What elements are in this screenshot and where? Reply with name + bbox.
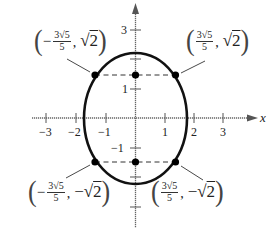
label-bottom-right: ( 3√5 5 , −√2 ) <box>151 179 224 205</box>
comma: , <box>215 35 219 54</box>
radicand: 2 <box>93 182 102 201</box>
y-tick-label: 3 <box>121 23 127 37</box>
y-tick-label: 1 <box>122 82 128 96</box>
numerator: 3√5 <box>196 30 214 42</box>
sign: − <box>43 33 51 50</box>
sign: − <box>74 182 84 201</box>
radicand: 2 <box>207 182 216 201</box>
point-bottom-left <box>91 158 98 165</box>
sqrt-icon: √ <box>197 182 206 201</box>
leader-line-top-left <box>67 59 90 72</box>
x-tick-label: 3 <box>220 125 226 139</box>
fraction: 3√5 5 <box>161 181 179 203</box>
sqrt-expr: −√2 <box>188 182 215 202</box>
label-top-left: ( − 3√5 5 , √2 ) <box>34 28 107 54</box>
point-bottom-right <box>172 158 179 165</box>
x-tick-label: 2 <box>191 125 197 139</box>
numerator: 3√5 <box>161 181 179 193</box>
comma: , <box>67 186 71 205</box>
denominator: 5 <box>59 42 64 53</box>
y-tick-label: −1 <box>111 141 124 155</box>
x-tick-label: −2 <box>68 125 81 139</box>
fraction: 3√5 5 <box>196 30 214 52</box>
leader-line-bottom-right <box>181 166 203 180</box>
sign: − <box>37 184 45 201</box>
numerator: 3√5 <box>53 30 71 42</box>
point-top-center <box>132 71 139 78</box>
paren-open: ( <box>151 177 160 207</box>
radicand: 2 <box>89 31 98 50</box>
y-axis: 3 1 −1 <box>111 3 141 228</box>
denominator: 5 <box>202 42 207 53</box>
paren-close: ) <box>215 177 224 207</box>
label-top-right: ( 3√5 5 , √2 ) <box>186 28 249 54</box>
sqrt-expr: √2 <box>80 31 98 51</box>
fraction: 3√5 5 <box>47 181 65 203</box>
x-tick-label: −1 <box>98 125 111 139</box>
x-axis-label: x <box>259 110 266 125</box>
point-top-right <box>172 71 179 78</box>
x-axis-arrow-icon <box>247 115 258 122</box>
x-tick-label: −3 <box>39 125 52 139</box>
numerator: 3√5 <box>47 181 65 193</box>
paren-open: ( <box>28 177 37 207</box>
x-tick-label: 1 <box>162 125 168 139</box>
sqrt-icon: √ <box>223 31 232 50</box>
y-axis-arrow-icon <box>132 3 139 14</box>
paren-open: ( <box>34 26 43 56</box>
leader-line-bottom-left <box>66 165 90 178</box>
sqrt-expr: √2 <box>223 31 241 51</box>
sign: − <box>188 182 198 201</box>
paren-close: ) <box>98 26 107 56</box>
sqrt-expr: −√2 <box>74 182 101 202</box>
denominator: 5 <box>53 193 58 204</box>
point-top-left <box>91 71 98 78</box>
comma: , <box>73 35 77 54</box>
leader-line-top-right <box>181 61 205 73</box>
radicand: 2 <box>232 31 241 50</box>
denominator: 5 <box>167 193 172 204</box>
fraction: 3√5 5 <box>53 30 71 52</box>
paren-close: ) <box>102 177 111 207</box>
paren-close: ) <box>241 26 250 56</box>
sqrt-icon: √ <box>84 182 93 201</box>
comma: , <box>180 186 184 205</box>
paren-open: ( <box>186 26 195 56</box>
label-bottom-left: ( − 3√5 5 , −√2 ) <box>28 179 110 205</box>
point-bottom-center <box>132 158 139 165</box>
x-axis: −3 −2 −1 1 2 3 x <box>32 110 266 139</box>
